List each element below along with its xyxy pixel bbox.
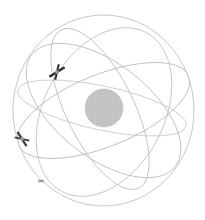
satellite-upper-left[interactable] xyxy=(46,62,67,81)
satellite-bottom[interactable] xyxy=(37,178,45,184)
central-body-disc xyxy=(85,89,123,127)
scene-svg xyxy=(0,0,205,220)
orbital-visualization-canvas xyxy=(0,0,205,220)
central-body-group xyxy=(85,89,123,127)
